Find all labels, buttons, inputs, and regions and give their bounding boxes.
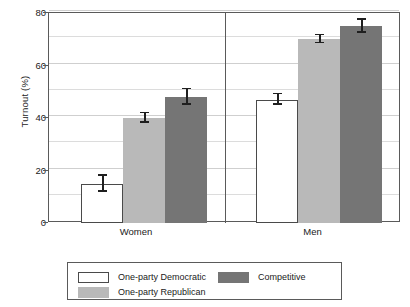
y-tick-label: 0 bbox=[0, 217, 46, 228]
plot-area bbox=[48, 12, 400, 222]
panel-women bbox=[49, 13, 225, 223]
bar bbox=[298, 39, 340, 223]
bar bbox=[165, 97, 207, 223]
error-bar-cap bbox=[98, 174, 107, 176]
bar bbox=[123, 118, 165, 223]
error-bar-cap bbox=[273, 93, 282, 95]
legend-item-democratic: One-party Democratic bbox=[78, 270, 206, 284]
y-tick-label: 60 bbox=[0, 59, 46, 70]
y-axis-title: Turnout (%) bbox=[19, 32, 30, 172]
y-tick-label: 80 bbox=[0, 7, 46, 18]
error-bar-cap bbox=[182, 88, 191, 90]
error-bar-cap bbox=[315, 42, 324, 44]
panel-men bbox=[226, 13, 401, 223]
gridline bbox=[49, 10, 399, 11]
bar bbox=[340, 26, 382, 223]
error-bar-cap bbox=[98, 190, 107, 192]
legend-swatch-competitive bbox=[218, 272, 249, 283]
legend-label-republican: One-party Republican bbox=[118, 287, 206, 297]
legend: One-party Democratic One-party Republica… bbox=[67, 262, 342, 300]
error-bar-cap bbox=[315, 34, 324, 36]
chart-figure: Turnout (%) 020406080 Women Men One-part… bbox=[0, 0, 410, 307]
y-tick-label: 40 bbox=[0, 112, 46, 123]
x-tick-women: Women bbox=[48, 226, 224, 237]
error-bar-cap bbox=[273, 103, 282, 105]
x-tick-men: Men bbox=[225, 226, 400, 237]
bar bbox=[256, 100, 298, 223]
y-tick-mark bbox=[43, 222, 48, 223]
error-bar-cap bbox=[357, 31, 366, 33]
legend-label-democratic: One-party Democratic bbox=[118, 272, 206, 282]
legend-item-competitive: Competitive bbox=[218, 270, 306, 284]
error-bar-cap bbox=[357, 18, 366, 20]
error-bar-cap bbox=[140, 112, 149, 114]
y-tick-label: 20 bbox=[0, 164, 46, 175]
error-bar-cap bbox=[182, 103, 191, 105]
panel-divider bbox=[225, 13, 226, 223]
error-bar-cap bbox=[140, 121, 149, 123]
legend-item-republican: One-party Republican bbox=[78, 285, 206, 299]
legend-swatch-republican bbox=[78, 287, 109, 298]
legend-label-competitive: Competitive bbox=[258, 272, 306, 282]
legend-swatch-democratic bbox=[78, 272, 109, 283]
